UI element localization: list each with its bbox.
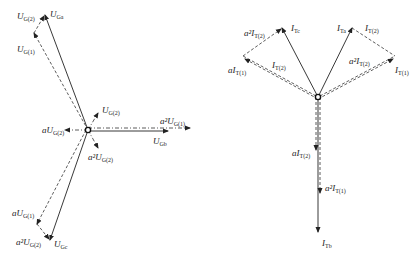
phasor-diagrams: UG(2) UGa UG(1) UG(2) aUG(2) a²UG(1) UGb… — [0, 0, 420, 265]
label-a2U-G2-bottom: a²UG(2) — [16, 237, 41, 249]
label-a2I-T2-left: a²IT(2) — [244, 28, 265, 40]
label-a2U-G1: a²UG(1) — [160, 116, 185, 128]
phasor-aI-T1 — [243, 56, 316, 96]
label-U-G2-mid: UG(2) — [102, 105, 120, 117]
label-a2I-T2-right: a²IT(2) — [349, 56, 370, 68]
label-U-Ga: UGa — [50, 9, 64, 20]
label-a2I-T1: a²IT(1) — [325, 183, 346, 195]
left-labels: UG(2) UGa UG(1) UG(2) aUG(2) a²UG(1) UGb… — [12, 9, 185, 250]
label-I-Tc: ITc — [290, 23, 300, 34]
phasor-aU-G1 — [37, 130, 86, 224]
label-aI-T1: aIT(1) — [228, 65, 246, 77]
label-U-Gc: UGc — [54, 239, 68, 250]
label-U-Gb: UGb — [153, 136, 167, 147]
label-aI-T2: aIT(2) — [292, 148, 310, 160]
phasor-U-G1 — [34, 33, 88, 130]
label-a2U-G2-mid: a²UG(2) — [88, 152, 113, 164]
phasor-U-Ga — [45, 15, 88, 130]
label-I-Tb: ITb — [321, 238, 332, 249]
label-aU-G2: aUG(2) — [42, 125, 64, 137]
phasor-I-Tc — [282, 28, 318, 97]
origin-node — [315, 94, 320, 99]
label-I-Ta: ITa — [336, 23, 346, 34]
label-U-G1-top: UG(1) — [17, 44, 35, 56]
left-phasor-diagram — [34, 15, 190, 240]
phasor-a2U-G2-bottom — [37, 224, 49, 239]
phasor-I-Ta — [318, 28, 352, 97]
phasor-U-G2-top — [34, 16, 44, 33]
phasor-U-Gc — [50, 130, 88, 240]
label-U-G2-top: UG(2) — [17, 11, 35, 23]
label-I-T1: IT(1) — [394, 65, 409, 77]
label-aU-G1: aUG(1) — [12, 208, 34, 220]
label-I-T2-left: IT(2) — [271, 60, 286, 72]
origin-node — [85, 127, 90, 132]
label-I-T2-right: IT(2) — [364, 23, 379, 35]
right-phasor-diagram — [243, 28, 395, 232]
